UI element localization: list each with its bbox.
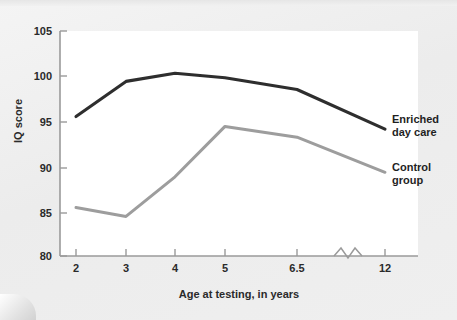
x-tick-label-12: 12 bbox=[379, 262, 391, 274]
figure-container: 105 100 95 90 85 80 2 3 4 5 6.5 12 IQ sc… bbox=[0, 0, 457, 320]
y-tick-label-100: 100 bbox=[20, 70, 52, 82]
x-tick-label-6point5: 6.5 bbox=[289, 262, 304, 274]
y-tick-label-80: 80 bbox=[20, 250, 52, 262]
x-axis-title: Age at testing, in years bbox=[60, 288, 418, 300]
y-tick-label-85: 85 bbox=[20, 207, 52, 219]
y-tick-marks bbox=[60, 31, 67, 256]
y-tick-label-105: 105 bbox=[20, 25, 52, 37]
x-tick-label-3: 3 bbox=[123, 262, 129, 274]
y-tick-label-95: 95 bbox=[20, 116, 52, 128]
y-tick-label-90: 90 bbox=[20, 162, 52, 174]
series-label-enriched-day-care: Enriched day care bbox=[392, 113, 439, 139]
x-tick-label-4: 4 bbox=[172, 262, 178, 274]
x-tick-label-5: 5 bbox=[222, 262, 228, 274]
y-axis-title: IQ score bbox=[12, 99, 24, 143]
x-tick-label-2: 2 bbox=[73, 262, 79, 274]
series-line-control-group bbox=[76, 126, 385, 216]
series-line-enriched-day-care bbox=[76, 73, 385, 129]
series-label-control-group: Control group bbox=[392, 161, 431, 187]
